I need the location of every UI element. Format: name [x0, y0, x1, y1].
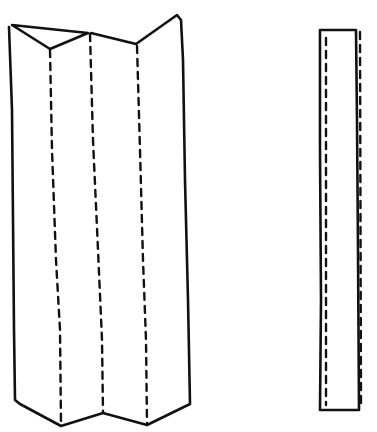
fold-line-3 — [137, 46, 147, 423]
strip-fold-right — [360, 32, 361, 405]
accordion-fold — [9, 15, 190, 426]
fold-line-1 — [50, 50, 61, 424]
flat-strip — [320, 30, 361, 410]
fold-line-2 — [90, 34, 103, 412]
accordion-outline — [9, 15, 190, 426]
fold-diagram — [0, 0, 377, 432]
